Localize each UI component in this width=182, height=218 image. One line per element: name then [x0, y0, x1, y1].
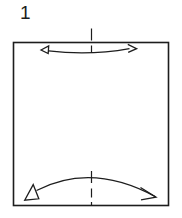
open-arrowhead-icon — [41, 46, 49, 54]
origami-step-diagram: 1 — [0, 0, 182, 218]
open-arrowhead-icon — [25, 185, 39, 201]
top-double-arrow — [41, 44, 137, 53]
arrow-shaft — [49, 49, 130, 53]
diagram-canvas — [0, 0, 182, 218]
arrow-shaft — [37, 178, 156, 197]
bottom-curved-arrow — [25, 178, 156, 201]
